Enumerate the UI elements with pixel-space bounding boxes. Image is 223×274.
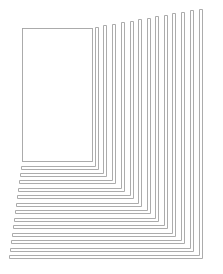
nested-l-strips bbox=[10, 10, 203, 259]
l-strip-8 bbox=[15, 17, 159, 222]
l-strip-5 bbox=[18, 22, 134, 199]
inner-rectangle bbox=[23, 29, 93, 162]
l-strip-9 bbox=[14, 16, 168, 229]
l-strip-3 bbox=[20, 25, 116, 184]
l-strip-2 bbox=[21, 26, 107, 177]
l-strip-1 bbox=[22, 28, 99, 170]
nested-bracket-diagram bbox=[0, 0, 223, 274]
l-strip-6 bbox=[17, 20, 142, 207]
diagram-svg bbox=[0, 0, 223, 274]
l-strip-12 bbox=[11, 11, 194, 252]
